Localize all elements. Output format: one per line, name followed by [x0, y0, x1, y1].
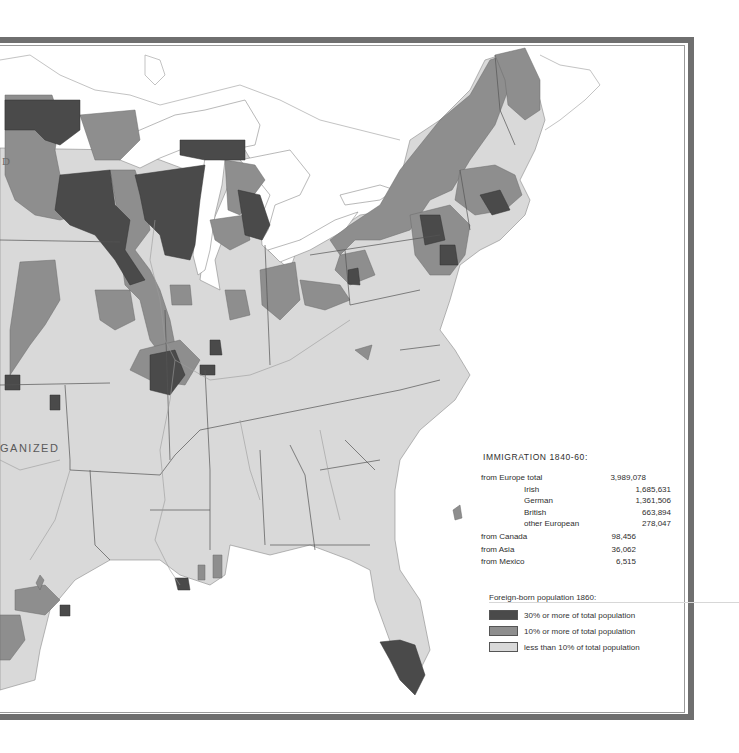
- europe-breakdown-row: Irish 1,685,631: [524, 484, 671, 495]
- row-value: 3,989,078: [610, 472, 646, 483]
- row-value: 98,456: [612, 531, 636, 544]
- legend-item-under10pct: less than 10% of total population: [489, 639, 739, 655]
- row-value: 663,894: [642, 507, 671, 518]
- row-value: 278,047: [642, 518, 671, 529]
- territory-label-partial: D: [2, 155, 10, 167]
- row-label: from Asia: [481, 544, 514, 557]
- row-label: from Canada: [481, 531, 527, 544]
- row-label: from Mexico: [481, 556, 525, 569]
- europe-breakdown-row: other European 278,047: [524, 518, 671, 529]
- legend-label: less than 10% of total population: [524, 643, 640, 652]
- row-value: 1,685,631: [635, 484, 671, 495]
- row-label: British: [524, 507, 546, 518]
- legend-label: 10% or more of total population: [524, 627, 635, 636]
- row-label: Irish: [524, 484, 539, 495]
- legend-label: 30% or more of total population: [524, 611, 635, 620]
- immigration-table: IMMIGRATION 1840-60: from Europe total 3…: [481, 452, 671, 569]
- europe-total-row: from Europe total 3,989,078: [481, 472, 646, 483]
- map-legend: Foreign-born population 1860: 30% or mor…: [489, 593, 739, 655]
- source-row: from Asia 36,062: [481, 544, 636, 557]
- legend-swatch-light: [489, 642, 518, 652]
- row-label: from Europe total: [481, 472, 542, 483]
- europe-breakdown-row: German 1,361,506: [524, 495, 671, 506]
- legend-title: Foreign-born population 1860:: [489, 593, 739, 603]
- row-label: other European: [524, 518, 579, 529]
- source-row: from Canada 98,456: [481, 531, 636, 544]
- legend-item-10pct: 10% or more of total population: [489, 623, 739, 639]
- europe-breakdown-row: British 663,894: [524, 507, 671, 518]
- legend-swatch-dark: [489, 610, 518, 620]
- unorganized-territory-label: GANIZED: [0, 442, 59, 454]
- row-value: 36,062: [612, 544, 636, 557]
- row-label: German: [524, 495, 553, 506]
- legend-item-30pct: 30% or more of total population: [489, 607, 739, 623]
- legend-swatch-medium: [489, 626, 518, 636]
- row-value: 6,515: [616, 556, 636, 569]
- immigration-title: IMMIGRATION 1840-60:: [483, 452, 671, 462]
- row-value: 1,361,506: [635, 495, 671, 506]
- source-row: from Mexico 6,515: [481, 556, 636, 569]
